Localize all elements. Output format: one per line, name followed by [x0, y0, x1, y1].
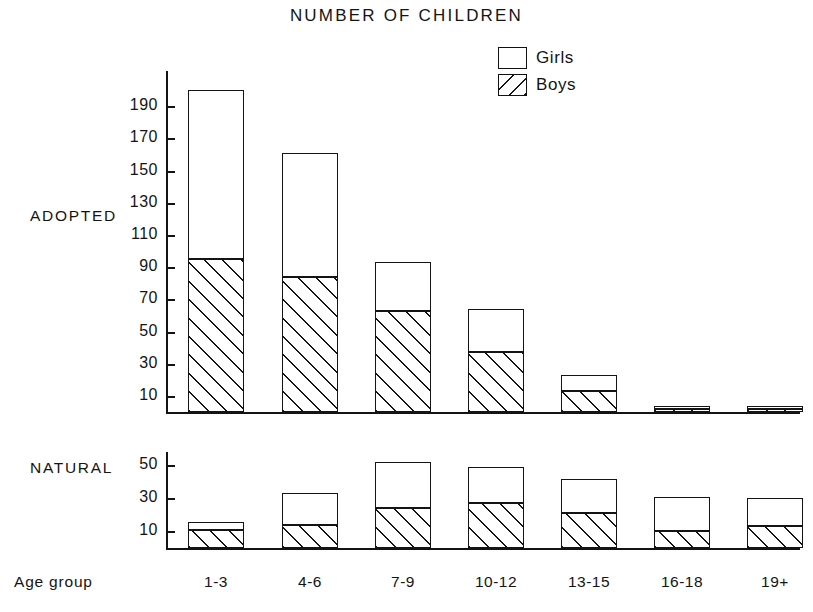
- y-tick-top-5: [166, 267, 175, 269]
- bar-segment-girls: [654, 497, 710, 532]
- bar-segment-boys: [561, 513, 617, 548]
- boys-swatch-icon: [498, 74, 527, 96]
- y-tick-label-bottom-2: 10: [112, 521, 158, 539]
- bar-segment-girls: [282, 153, 338, 277]
- bar-segment-girls: [561, 479, 617, 514]
- bar-bottom-4-6: [282, 493, 338, 548]
- y-tick-top-0: [166, 106, 175, 108]
- y-tick-label-bottom-0: 50: [112, 455, 158, 473]
- x-category-10-12: 10-12: [451, 573, 541, 591]
- bar-top-7-9: [375, 262, 431, 412]
- y-tick-bottom-0: [166, 465, 175, 467]
- chart-title: NUMBER OF CHILDREN: [0, 6, 813, 26]
- legend-item-boys: Boys: [498, 71, 576, 98]
- x-category-1-3: 1-3: [171, 573, 261, 591]
- x-category-13-15: 13-15: [544, 573, 634, 591]
- legend-item-girls: Girls: [498, 44, 576, 71]
- bar-segment-boys: [282, 277, 338, 412]
- girls-swatch-icon: [498, 47, 527, 69]
- y-tick-top-4: [166, 235, 175, 237]
- x-category-16-18: 16-18: [637, 573, 727, 591]
- bar-bottom-13-15: [561, 479, 617, 548]
- bar-top-13-15: [561, 375, 617, 412]
- bar-segment-boys: [747, 526, 803, 548]
- bar-segment-girls: [561, 375, 617, 391]
- y-tick-top-8: [166, 364, 175, 366]
- x-axis-bottom: [166, 548, 800, 550]
- bar-segment-boys: [654, 531, 710, 548]
- bar-top-10-12: [468, 309, 524, 412]
- bar-segment-boys: [282, 525, 338, 548]
- y-tick-top-9: [166, 396, 175, 398]
- bar-bottom-7-9: [375, 462, 431, 548]
- legend: Girls Boys: [498, 44, 576, 98]
- y-axis-top: [166, 71, 168, 414]
- x-axis-top: [166, 412, 800, 414]
- bar-segment-boys: [561, 391, 617, 412]
- chart-canvas: NUMBER OF CHILDREN Girls Boys ADOPTED NA…: [0, 0, 813, 612]
- y-tick-top-6: [166, 299, 175, 301]
- y-tick-top-7: [166, 332, 175, 334]
- bar-segment-girls: [188, 90, 244, 259]
- y-tick-label-top-4: 110: [112, 225, 158, 243]
- bar-segment-boys: [747, 409, 803, 412]
- bar-segment-boys: [375, 508, 431, 548]
- bar-bottom-1-3: [188, 522, 244, 548]
- panel-label-adopted: ADOPTED: [30, 207, 117, 225]
- bar-segment-boys: [468, 352, 524, 412]
- bar-bottom-19+: [747, 498, 803, 548]
- bar-bottom-16-18: [654, 497, 710, 548]
- y-tick-label-top-5: 90: [112, 257, 158, 275]
- x-category-4-6: 4-6: [265, 573, 355, 591]
- bar-top-4-6: [282, 153, 338, 412]
- bar-segment-boys: [375, 311, 431, 412]
- panel-label-natural: NATURAL: [30, 459, 113, 477]
- bar-segment-boys: [654, 409, 710, 412]
- y-tick-label-top-8: 30: [112, 354, 158, 372]
- x-category-7-9: 7-9: [358, 573, 448, 591]
- bar-segment-girls: [282, 493, 338, 524]
- bar-segment-boys: [188, 259, 244, 412]
- y-tick-label-top-0: 190: [112, 96, 158, 114]
- y-tick-top-2: [166, 171, 175, 173]
- y-tick-label-top-1: 170: [112, 128, 158, 146]
- y-tick-label-bottom-1: 30: [112, 488, 158, 506]
- bar-top-1-3: [188, 90, 244, 412]
- y-tick-bottom-2: [166, 531, 175, 533]
- bar-segment-girls: [188, 522, 244, 530]
- y-tick-top-3: [166, 203, 175, 205]
- legend-label-boys: Boys: [536, 75, 576, 95]
- bar-segment-boys: [188, 530, 244, 548]
- bar-segment-girls: [375, 462, 431, 508]
- axis-label-age-group: Age group: [14, 573, 93, 591]
- bar-segment-girls: [468, 467, 524, 503]
- bar-bottom-10-12: [468, 467, 524, 548]
- y-tick-label-top-9: 10: [112, 386, 158, 404]
- bar-segment-boys: [468, 503, 524, 548]
- bar-segment-girls: [747, 498, 803, 526]
- bar-top-19+: [747, 406, 803, 412]
- bar-top-16-18: [654, 406, 710, 412]
- x-category-19+: 19+: [730, 573, 813, 591]
- y-tick-label-top-3: 130: [112, 193, 158, 211]
- y-tick-top-1: [166, 138, 175, 140]
- y-tick-label-top-7: 50: [112, 322, 158, 340]
- legend-label-girls: Girls: [536, 48, 574, 68]
- bar-segment-girls: [375, 262, 431, 310]
- bar-segment-girls: [468, 309, 524, 352]
- y-tick-bottom-1: [166, 498, 175, 500]
- y-tick-label-top-2: 150: [112, 161, 158, 179]
- y-tick-label-top-6: 70: [112, 289, 158, 307]
